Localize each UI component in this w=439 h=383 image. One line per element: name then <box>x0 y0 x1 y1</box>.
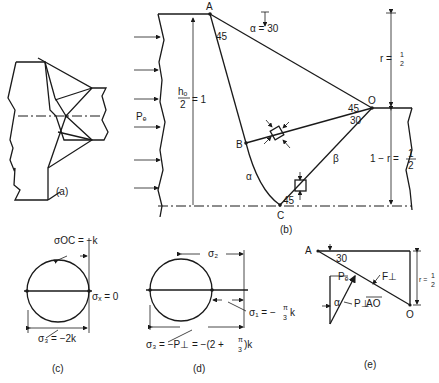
pressure-label: Pₑ <box>136 111 147 122</box>
sigma-3-denominator-d: 3 <box>238 346 242 353</box>
angle-o-upper-label: 45 <box>348 103 360 114</box>
angle-c-label: 45 <box>283 195 295 206</box>
one-minus-r-label: 1 − r = <box>370 153 399 164</box>
point-a-label: A <box>206 1 213 12</box>
angle-o-lower-label: 30 <box>350 115 362 126</box>
point-c-label: C <box>277 210 284 221</box>
r-num-e: 1 <box>431 272 435 279</box>
panel-c-caption: (c) <box>52 363 64 374</box>
sigma-1-k: k <box>290 307 296 318</box>
r-label-e: r = <box>419 276 427 283</box>
r-numerator: 1 <box>400 51 404 58</box>
sigma-2-label: σ₂ <box>208 248 218 259</box>
angle-a-label: 45 <box>216 31 228 42</box>
panel-e: A O 30 F⊥ Pₑ α P⊥ AO r = 1 2 (e) <box>305 244 435 370</box>
alpha-angle-label: α = 30 <box>250 23 279 34</box>
alpha-e-label: α <box>334 297 340 308</box>
height-equals: = 1 <box>192 94 207 105</box>
panel-a-caption: (a) <box>56 186 68 197</box>
f-perp-label: F⊥ <box>382 271 397 282</box>
panel-b: Pₑ hₒ 2 = 1 A B C O 45 α = 30 45 30 45 α… <box>134 1 416 235</box>
stress-element-co <box>295 172 306 200</box>
point-o-e: O <box>406 309 414 320</box>
height-numerator: hₒ <box>178 86 188 97</box>
r-den-e: 2 <box>431 281 435 288</box>
panel-b-caption: (b) <box>280 224 292 235</box>
slip-line-figure: (a) Pₑ hₒ 2 = 1 <box>0 0 439 383</box>
sigma-3-end-d: )k <box>244 339 253 350</box>
sigma-3-label-d: σ₃ = −P⊥ = −(2 + <box>146 339 224 350</box>
point-a-e: A <box>305 245 312 256</box>
panel-e-caption: (e) <box>364 359 376 370</box>
one-minus-r-denominator: 2 <box>408 160 414 171</box>
r-label: r = <box>380 53 392 64</box>
ao-overline-label: AO <box>366 298 381 309</box>
sigma-3-label: σ₃ = −2k <box>38 333 77 344</box>
height-denominator: 2 <box>180 99 186 110</box>
sigma-x-label: σₓ = 0 <box>92 291 119 302</box>
alpha-line-label: α <box>246 171 252 182</box>
panel-d: σ₂ σ₁ = − π 3 k σ₃ = −P⊥ = −(2 + π 3 )k … <box>146 248 296 374</box>
sigma-1-denominator: 3 <box>283 314 287 321</box>
panel-a: (a) <box>8 58 108 200</box>
p-e-label: Pₑ <box>338 271 349 282</box>
panel-c: σOC = −k σₓ = 0 σ₃ = −2k (c) <box>24 235 119 374</box>
sigma-3-numerator-d: π <box>238 336 243 343</box>
angle-e-label: 30 <box>336 253 348 264</box>
point-o-label: O <box>368 95 376 106</box>
panel-d-caption: (d) <box>193 363 205 374</box>
one-minus-r-numerator: 1 <box>408 148 414 159</box>
sigma-oc-label: σOC = −k <box>54 235 98 246</box>
r-denominator: 2 <box>400 60 404 67</box>
sigma-1-label: σ₁ = − <box>249 307 276 318</box>
beta-line-label: β <box>333 153 339 164</box>
point-b-label: B <box>236 139 243 150</box>
sigma-1-numerator: π <box>283 304 288 311</box>
